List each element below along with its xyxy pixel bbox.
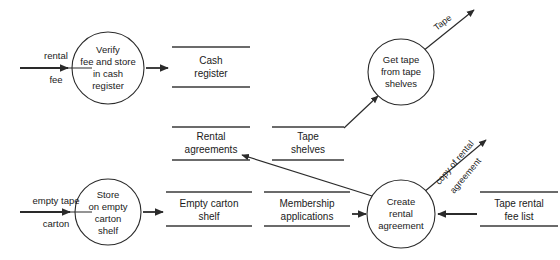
flow-label-empty-tape-carton-line-1: carton <box>43 218 69 229</box>
data-store-membership-applications-line-0: Membership <box>279 198 334 209</box>
process-create-agreement-line-2: agreement <box>378 220 424 231</box>
process-verify-fee-line-1: fee and store <box>80 56 135 67</box>
flow-label-rental-fee-line-1: fee <box>49 74 62 85</box>
flow-label-empty-tape-carton-line-0: empty tape <box>33 195 80 206</box>
process-verify-fee-line-2: in cash <box>93 68 123 79</box>
data-store-rental-agreements-line-1: agreements <box>185 144 238 155</box>
data-store-cash-register-line-1: register <box>194 68 228 79</box>
dfd-canvas: Verify fee and store in cash register Ge… <box>0 0 560 260</box>
process-store-carton-line-0: Store <box>97 189 120 200</box>
data-store-rental-agreements[interactable]: Rental agreements <box>172 127 250 160</box>
process-store-carton-line-1: on empty <box>88 201 127 212</box>
flow-arrow-tape-shelves-to-get-tape <box>344 96 378 128</box>
data-store-membership-applications-line-1: applications <box>281 211 334 222</box>
process-create-agreement[interactable]: Create rental agreement <box>367 180 435 248</box>
data-store-tape-rental-fee-list-line-0: Tape rental <box>494 198 543 209</box>
data-store-rental-agreements-line-0: Rental <box>197 131 226 142</box>
data-store-empty-carton-shelf-line-1: shelf <box>198 211 219 222</box>
process-store-carton-line-2: carton <box>95 213 121 224</box>
dfd-svg: Verify fee and store in cash register Ge… <box>0 0 560 260</box>
process-get-tape-line-2: shelves <box>385 78 417 89</box>
process-get-tape-line-1: from tape <box>381 66 421 77</box>
flow-label-rental-fee-line-0: rental <box>44 50 68 61</box>
process-create-agreement-line-1: rental <box>389 208 413 219</box>
data-store-empty-carton-shelf[interactable]: Empty carton shelf <box>166 192 252 226</box>
data-store-cash-register-line-0: Cash <box>199 55 222 66</box>
data-store-empty-carton-shelf-line-0: Empty carton <box>180 198 239 209</box>
data-store-cash-register[interactable]: Cash register <box>172 47 250 87</box>
data-store-tape-shelves-line-1: shelves <box>291 144 325 155</box>
data-store-tape-shelves[interactable]: Tape shelves <box>272 127 344 160</box>
process-get-tape-line-0: Get tape <box>383 54 419 65</box>
process-verify-fee-line-0: Verify <box>96 44 120 55</box>
process-create-agreement-line-0: Create <box>387 196 416 207</box>
flow-arrow-create-to-rental-agreements <box>242 155 372 196</box>
process-verify-fee-line-3: register <box>92 80 124 91</box>
process-store-carton-line-3: shelf <box>98 225 118 236</box>
data-store-tape-shelves-line-0: Tape <box>297 131 319 142</box>
flow-label-copy-of-rental-agreement: copy of rental agreement <box>433 139 483 196</box>
data-store-tape-rental-fee-list-line-1: fee list <box>505 211 534 222</box>
process-get-tape[interactable]: Get tape from tape shelves <box>368 39 434 105</box>
data-store-tape-rental-fee-list[interactable]: Tape rental fee list <box>480 192 558 226</box>
data-store-membership-applications[interactable]: Membership applications <box>264 192 350 226</box>
flow-label-rental-fee: rental fee <box>44 50 68 85</box>
